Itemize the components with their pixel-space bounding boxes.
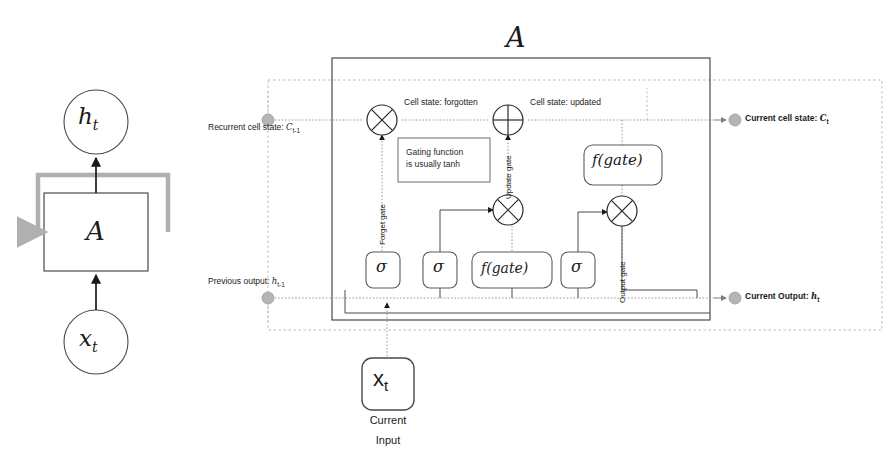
inner-output-return-bus [345, 290, 710, 313]
figure-canvas: h_tht A x_txt A Recurrent cell state: Ct… [0, 0, 888, 471]
current-output-marker [729, 292, 741, 304]
update-sigma-to-multiply [440, 210, 493, 258]
update-gate-label: Update gate [504, 155, 513, 199]
update-sigma-text: σ [433, 258, 444, 276]
right-lstm-diagram [262, 58, 882, 410]
current-cell-state-label: Current cell state: Ct [745, 114, 829, 125]
left-output-node-label: h_tht [78, 103, 98, 133]
output-gate-label: Output gate [618, 261, 627, 303]
current-output-label: Current Output: ht [745, 292, 819, 303]
forget-gate-label: Forget gate [378, 204, 387, 245]
current-input-caption-line1: Current [361, 414, 415, 427]
previous-output-marker [262, 292, 274, 304]
current-cell-state-marker [729, 114, 741, 126]
current-input-symbol: xxt [373, 366, 388, 395]
gating-note-line1: Gating function [406, 146, 486, 158]
cell-state-forgotten-label: Cell state: forgotten [404, 98, 478, 108]
previous-output-label: Previous output: ht-1 [208, 277, 285, 288]
left-input-node-label: x_txt [79, 325, 98, 355]
gating-note-line2: is usually tanh [406, 158, 486, 170]
output-multiply-operator [607, 196, 637, 226]
current-input-caption-line2: Input [361, 434, 415, 447]
output-sigma-to-multiply [578, 212, 607, 258]
current-output-sub: t [817, 296, 819, 303]
recurrent-cell-state-label: Recurrent cell state: Ct-1 [208, 123, 300, 134]
gating-note-text: Gating function is usually tanh [406, 146, 486, 171]
recurrent-cell-state-sub: t-1 [292, 127, 300, 134]
cell-state-updated-label: Cell state: updated [530, 98, 601, 108]
forget-sigma-text: σ [376, 258, 387, 276]
left-cell-label: A [86, 217, 105, 247]
candidate-fgate-text: f(gate) [481, 260, 528, 276]
update-multiply-operator [493, 195, 523, 225]
output-multiply-to-bus [622, 226, 697, 298]
diagram-vector-layer [0, 0, 888, 471]
cellstate-add-operator [493, 105, 523, 135]
lstm-cell-label: A [506, 22, 526, 53]
cellstate-fgate-text: f(gate) [592, 152, 643, 169]
previous-output-sub: t-1 [277, 281, 285, 288]
output-sigma-text: σ [571, 258, 582, 276]
forget-multiply-operator [367, 105, 397, 135]
current-cell-state-sub: t [826, 118, 828, 125]
